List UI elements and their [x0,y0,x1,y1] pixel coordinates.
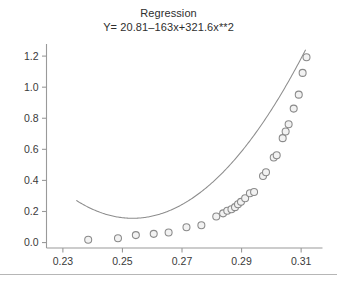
data-point-marker [198,222,205,229]
data-point-marker [263,169,270,176]
y-tick-label: 0.6 [24,143,39,155]
data-point-marker [273,152,280,159]
data-point-marker [132,232,139,239]
data-points [85,54,310,243]
data-point-marker [114,235,121,242]
data-point-marker [290,105,297,112]
plot-area: 0.00.20.40.60.81.01.2 0.230.250.270.290.… [0,0,337,287]
data-point-marker [183,224,190,231]
x-tick-label: 0.27 [172,255,193,267]
x-tick-label: 0.29 [231,255,252,267]
data-point-marker [251,189,258,196]
data-point-marker [282,128,289,135]
data-point-marker [299,69,306,76]
data-point-marker [303,54,310,61]
y-tick-label: 1.2 [24,50,39,62]
y-tick-label: 0.2 [24,205,39,217]
data-point-marker [150,230,157,237]
data-point-marker [213,213,220,220]
x-tick-label: 0.31 [291,255,312,267]
data-point-marker [295,91,302,98]
x-tick-label: 0.23 [53,255,74,267]
data-point-marker [279,135,286,142]
y-axis: 0.00.20.40.60.81.01.2 [24,44,47,248]
regression-chart-figure: Regression Y= 20.81–163x+321.6x**2 0.00.… [0,0,337,287]
y-tick-label: 0.8 [24,112,39,124]
footer-divider [0,274,337,275]
y-tick-label: 0.4 [24,174,39,186]
y-tick-label: 1.0 [24,81,39,93]
y-tick-label: 0.0 [24,236,39,248]
data-point-marker [165,229,172,236]
data-point-marker [285,121,292,128]
data-point-marker [85,236,92,243]
x-tick-label: 0.25 [112,255,133,267]
x-axis: 0.230.250.270.290.31 [47,248,323,267]
regression-curve [76,50,305,219]
